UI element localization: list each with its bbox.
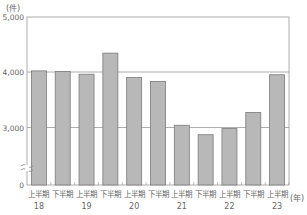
y-axis: 03,0004,0005,000 (3, 13, 33, 191)
x-tick-label: 下半期 (195, 189, 216, 199)
bar (55, 71, 70, 185)
x-tick-label: 上半期 (124, 189, 145, 199)
bar (151, 81, 166, 185)
bar (222, 129, 237, 185)
bar (198, 135, 213, 185)
bar (246, 113, 261, 185)
x-tick-label: 下半期 (243, 189, 264, 199)
y-tick-label: 0 (19, 181, 24, 190)
x-tick-label: 上半期 (171, 189, 192, 199)
y-tick-label: 3,000 (3, 124, 25, 133)
x-tick-label: 下半期 (100, 189, 121, 199)
year-label: 22 (224, 202, 234, 211)
bar (270, 75, 285, 185)
x-tick-label: 上半期 (267, 189, 288, 199)
bar (79, 74, 94, 185)
x-axis-unit-label: (年) (290, 193, 304, 203)
bar (103, 53, 118, 185)
bar (174, 125, 189, 185)
bar-chart: 03,0004,0005,000 上半期18下半期上半期19下半期上半期20下半… (0, 0, 307, 215)
y-tick-label: 5,000 (3, 13, 25, 22)
year-label: 21 (177, 202, 187, 211)
year-label: 18 (34, 202, 44, 211)
x-tick-label: 下半期 (52, 189, 73, 199)
x-tick-label: 上半期 (219, 189, 240, 199)
bars (31, 53, 284, 185)
x-tick-label: 上半期 (28, 189, 49, 199)
year-label: 23 (272, 202, 282, 211)
bar (31, 71, 46, 185)
year-label: 20 (129, 202, 139, 211)
x-tick-label: 上半期 (76, 189, 97, 199)
x-tick-label: 下半期 (148, 189, 169, 199)
x-axis: 上半期18下半期上半期19下半期上半期20下半期上半期21下半期上半期22下半期… (28, 182, 289, 211)
y-tick-label: 4,000 (3, 68, 25, 77)
year-label: 19 (81, 202, 91, 211)
bar (127, 78, 142, 185)
y-axis-unit-label: (件) (6, 3, 20, 13)
